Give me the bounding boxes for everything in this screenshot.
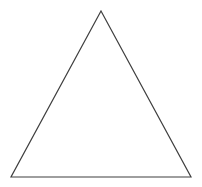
drawing-canvas bbox=[0, 0, 202, 187]
canvas-background bbox=[0, 0, 202, 187]
triangle-figure bbox=[0, 0, 202, 187]
